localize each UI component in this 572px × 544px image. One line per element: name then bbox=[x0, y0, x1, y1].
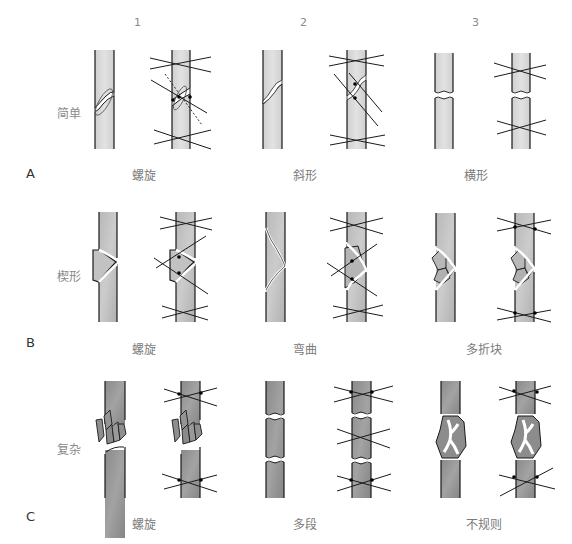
bone-c3-irregular bbox=[436, 381, 466, 498]
bone-c1-complex bbox=[96, 381, 126, 538]
bone-c3-irregular-fixed bbox=[499, 381, 555, 498]
bone-a2-oblique-fixed bbox=[329, 50, 385, 149]
bone-a2-oblique bbox=[263, 50, 282, 149]
bone-b3-fragmented-fixed bbox=[497, 213, 551, 322]
fracture-classification-figure bbox=[0, 0, 572, 544]
bone-c1-complex-fixed bbox=[162, 381, 217, 498]
bone-a3-transverse-fixed bbox=[494, 53, 546, 149]
bone-a1-spiral bbox=[92, 50, 116, 149]
bone-b2-bending-fixed bbox=[327, 212, 383, 322]
bone-c2-segmental bbox=[265, 381, 285, 498]
bone-b3-fragmented bbox=[432, 213, 455, 322]
bone-a1-spiral-fixed bbox=[150, 50, 211, 149]
bone-b1-wedge-fixed bbox=[154, 212, 212, 322]
bone-b1-wedge bbox=[93, 212, 117, 322]
bone-b2-bending bbox=[266, 212, 285, 322]
bone-a3-transverse bbox=[434, 53, 454, 149]
bone-c2-segmental-fixed bbox=[334, 381, 393, 498]
